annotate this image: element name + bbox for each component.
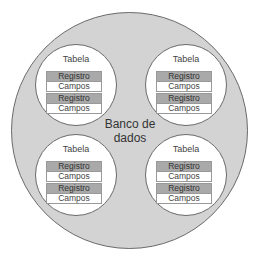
record-fields: Campos bbox=[47, 103, 101, 113]
database-label: Banco de dados bbox=[100, 117, 160, 145]
table-title: Tabela bbox=[36, 54, 116, 64]
database-label-line1: Banco de bbox=[100, 117, 160, 131]
record-header: Registro bbox=[157, 184, 211, 193]
table-circle-top-right: Tabela Registro Campos Registro Campos bbox=[145, 44, 227, 126]
record-header: Registro bbox=[47, 162, 101, 171]
record: Registro Campos bbox=[156, 93, 212, 114]
record-header: Registro bbox=[157, 162, 211, 171]
table-title: Tabela bbox=[146, 144, 226, 154]
record-fields: Campos bbox=[157, 103, 211, 113]
table-circle-top-left: Tabela Registro Campos Registro Campos bbox=[35, 44, 117, 126]
record: Registro Campos bbox=[46, 71, 102, 92]
record-fields: Campos bbox=[157, 193, 211, 203]
record-fields: Campos bbox=[47, 193, 101, 203]
table-title: Tabela bbox=[146, 54, 226, 64]
record-fields: Campos bbox=[157, 81, 211, 91]
database-label-line2: dados bbox=[100, 131, 160, 145]
record: Registro Campos bbox=[156, 71, 212, 92]
record: Registro Campos bbox=[46, 183, 102, 204]
record-header: Registro bbox=[47, 184, 101, 193]
record-fields: Campos bbox=[157, 171, 211, 181]
table-circle-bottom-left: Tabela Registro Campos Registro Campos bbox=[35, 134, 117, 216]
table-title: Tabela bbox=[36, 144, 116, 154]
record: Registro Campos bbox=[46, 93, 102, 114]
record-fields: Campos bbox=[47, 81, 101, 91]
record-header: Registro bbox=[47, 94, 101, 103]
table-circle-bottom-right: Tabela Registro Campos Registro Campos bbox=[145, 134, 227, 216]
record: Registro Campos bbox=[156, 161, 212, 182]
record: Registro Campos bbox=[156, 183, 212, 204]
record-fields: Campos bbox=[47, 171, 101, 181]
record-header: Registro bbox=[157, 72, 211, 81]
record-header: Registro bbox=[157, 94, 211, 103]
record-header: Registro bbox=[47, 72, 101, 81]
record: Registro Campos bbox=[46, 161, 102, 182]
